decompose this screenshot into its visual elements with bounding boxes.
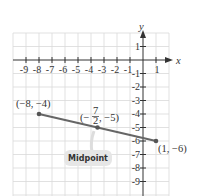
- point-endpoint-1: [37, 112, 42, 117]
- svg-text:-7: -7: [46, 64, 54, 75]
- x-axis-label: x: [175, 55, 181, 66]
- svg-text:-2: -2: [111, 64, 119, 75]
- coordinate-plane: x y -9 -8 -7 -6 -5 -4 -3 -2 -1 1 1 -1 -2…: [0, 0, 198, 196]
- svg-text:1: 1: [155, 64, 160, 75]
- svg-text:-8: -8: [33, 64, 41, 75]
- y-axis-label: y: [138, 21, 144, 32]
- endpoint-1-label: (−8, −4): [16, 98, 51, 110]
- svg-text:-4: -4: [132, 108, 140, 119]
- svg-text:, −5): , −5): [99, 112, 119, 124]
- svg-text:-5: -5: [132, 122, 140, 133]
- svg-text:1: 1: [135, 41, 140, 52]
- svg-text:-9: -9: [20, 64, 28, 75]
- callout-pointer: [91, 131, 94, 152]
- svg-text:-3: -3: [98, 64, 106, 75]
- svg-text:-4: -4: [85, 64, 93, 75]
- endpoint-2-label: (1, −6): [158, 143, 187, 155]
- svg-text:-9: -9: [132, 176, 140, 187]
- svg-text:-6: -6: [59, 64, 67, 75]
- svg-text:-8: -8: [132, 162, 140, 173]
- svg-text:-1: -1: [132, 68, 140, 79]
- svg-text:2: 2: [93, 115, 98, 126]
- svg-text:(−: (−: [80, 112, 89, 124]
- svg-text:-7: -7: [132, 149, 140, 160]
- y-tick-labels: 1 -1 -2 -3 -4 -5 -6 -7 -8 -9: [132, 41, 140, 187]
- svg-text:-3: -3: [132, 95, 140, 106]
- midpoint-callout-text: Midpoint: [68, 154, 108, 163]
- svg-text:-2: -2: [132, 81, 140, 92]
- svg-text:-5: -5: [72, 64, 80, 75]
- midpoint-label: (− 7 2 , −5): [80, 105, 119, 126]
